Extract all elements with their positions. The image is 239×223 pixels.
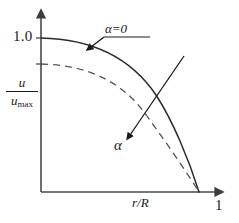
velocity-profile-figure: 1.0 u umax r/R 1 α=0 α (0, 0, 239, 223)
curve-alpha-zero (41, 38, 199, 192)
alpha-direction-arrow (130, 56, 184, 135)
y-axis-tick-label: 1.0 (13, 29, 33, 44)
curve-alpha-increasing (41, 64, 199, 192)
fraction-bar (6, 91, 38, 92)
alpha-zero-arrow (91, 37, 104, 47)
y-axis-label: u umax (6, 76, 38, 109)
alpha-zero-annotation-label: α=0 (105, 22, 127, 35)
y-axis-label-denominator-subscript: max (18, 99, 34, 109)
x-axis-label: r/R (132, 196, 149, 209)
y-axis-label-numerator: u (6, 76, 38, 90)
alpha-annotation-label: α (114, 138, 122, 153)
y-axis-label-denominator: umax (6, 93, 38, 109)
x-axis-end-tick-label: 1 (215, 198, 223, 213)
